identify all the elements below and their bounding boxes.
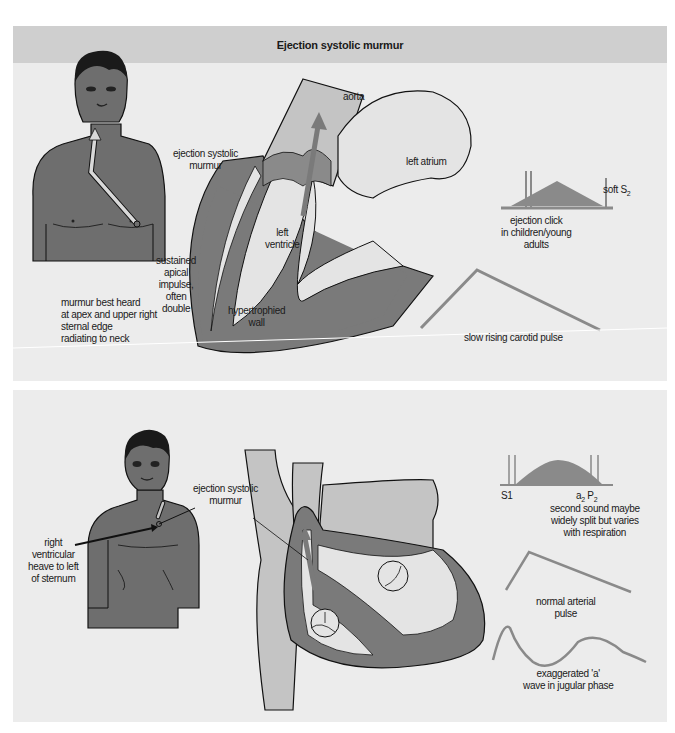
jugular-a-wave-waveform: [493, 627, 646, 666]
phonocardiogram-top: [501, 171, 613, 208]
label-ejection-systolic-murmur: ejection systolic murmur: [173, 148, 238, 172]
label-soft-s2: soft S2: [603, 184, 630, 200]
label-left-ventricle: left ventricle: [265, 227, 300, 251]
label-rv-heave: right ventricular heave to left of stern…: [28, 537, 79, 585]
label-hypertrophied-wall: hypertrophied wall: [228, 305, 285, 329]
label-carotid-pulse: slow rising carotid pulse: [464, 332, 563, 344]
label-ejection-click: ejection click in children/young adults: [501, 215, 572, 251]
label-aorta: aorta: [343, 91, 364, 103]
phonocardiogram-bottom: [500, 455, 613, 485]
arterial-pulse-waveform: [506, 552, 631, 592]
bottom-panel: ejection systolic murmur right ventricul…: [13, 390, 667, 722]
carotid-pulse-waveform: [421, 270, 600, 330]
top-panel: Ejection systolic murmur: [13, 26, 667, 381]
right-heart-diagram-icon: [245, 450, 485, 710]
patient-figure-icon: [75, 430, 199, 628]
label-s1: S1: [501, 490, 513, 502]
label-left-atrium: left atrium: [406, 156, 447, 168]
label-arterial-pulse: normal arterial pulse: [536, 596, 595, 620]
label-murmur-location: murmur best heard at apex and upper righ…: [61, 297, 157, 345]
label-ejection-systolic-murmur: ejection systolic murmur: [193, 483, 258, 507]
patient-figure-icon: [33, 51, 165, 261]
label-second-sound: second sound maybe widely split but vari…: [550, 503, 640, 539]
label-apical-impulse: sustained apical impulse, often double: [156, 255, 196, 315]
label-jugular-a-wave: exaggerated 'a' wave in jugular phase: [523, 668, 613, 692]
